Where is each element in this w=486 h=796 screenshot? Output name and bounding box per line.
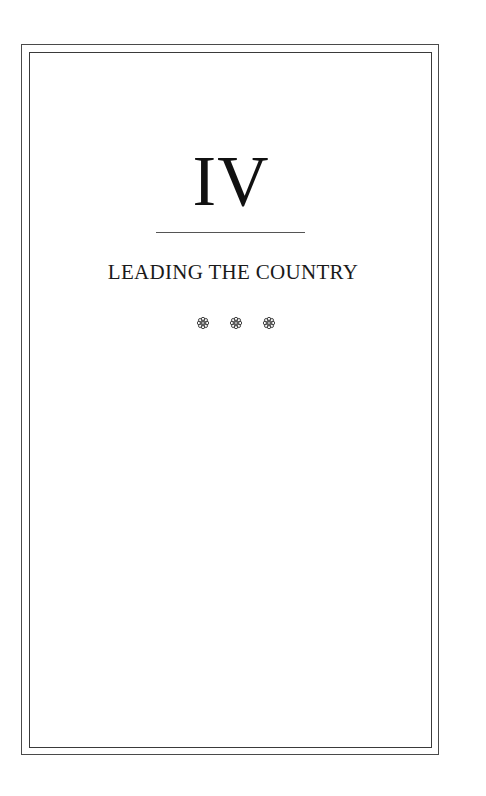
part-title: LEADING THE COUNTRY — [0, 259, 466, 285]
divider-rule — [156, 232, 305, 233]
part-numeral: IV — [0, 141, 462, 221]
ornament-row — [196, 316, 276, 330]
flower-ornament-icon — [262, 316, 276, 330]
flower-ornament-icon — [196, 316, 210, 330]
flower-ornament-icon — [229, 316, 243, 330]
